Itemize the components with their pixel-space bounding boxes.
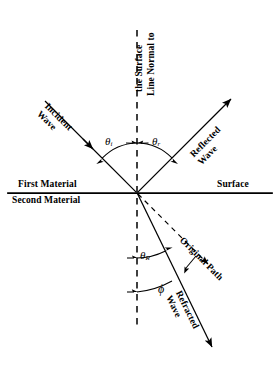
theta-i-arrow-ray (96, 159, 104, 164)
theta-r-arrow-ray (170, 159, 178, 164)
theta-r-label: θr (152, 135, 160, 148)
normal-line-label-second: the Surface (135, 45, 145, 92)
normal-line-label-row1: Line Normal to (147, 32, 157, 96)
phi-arc (137, 281, 172, 292)
refracted-ray (137, 194, 212, 347)
theta-R-subscript: R (145, 254, 149, 262)
theta-i-label: θi (105, 135, 112, 148)
theta-R-label: θR (140, 249, 150, 262)
theta-i-subscript: i (110, 140, 112, 148)
phi-label: ϕ (158, 282, 164, 297)
first-material-label: First Material (18, 179, 77, 190)
theta-R-arrow-ray (165, 248, 173, 251)
optics-diagram: Line Normal to the Surface Incident Wave… (0, 0, 280, 369)
incident-ray-arrowhead (83, 139, 93, 149)
theta-r-subscript: r (157, 140, 160, 148)
second-material-label: Second Material (12, 195, 80, 206)
normal-line-label: Line Normal to (147, 32, 157, 96)
surface-label: Surface (217, 179, 249, 190)
normal-line-label-row2: the Surface (135, 45, 145, 92)
